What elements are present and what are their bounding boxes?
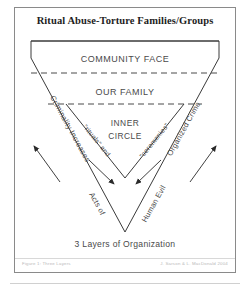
layer-label-our-family: OUR FAMILY <box>96 87 155 97</box>
figure-page: Ritual Abuse-Torture Families/Groups COM… <box>0 0 250 291</box>
arrow-right-outer <box>190 146 216 182</box>
arrow-left-outer <box>34 146 60 182</box>
layer-label-inner-circle-line1: INNER <box>111 118 140 128</box>
page-bottom-edge <box>10 283 240 284</box>
axis-label-human-evil: Human Evil <box>140 184 168 224</box>
axis-label-organized-crime: Organized Crime <box>165 100 202 157</box>
pyramid-diagram: COMMUNITY FACE OUR FAMILY INNER CIRCLE "… <box>0 0 250 291</box>
footer-divider <box>15 258 235 259</box>
figure-caption: 3 Layers of Organization <box>75 239 176 249</box>
footer-left-text: Figure 1: Three Layers <box>22 261 71 266</box>
layer-label-community-face: COMMUNITY FACE <box>81 54 169 64</box>
footer-right-text: J. Sarson & L. MacDonald 2004 <box>160 261 228 266</box>
inner-triangle-shape <box>66 104 184 178</box>
layer-label-inner-circle-line2: CIRCLE <box>108 131 142 141</box>
